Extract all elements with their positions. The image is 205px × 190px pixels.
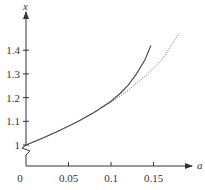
- x-tick-label: 0.1: [104, 172, 118, 184]
- chart-canvas: 11.11.21.31.4 00.050.10.15 x a: [0, 0, 205, 190]
- y-tick-label: 1.3: [6, 68, 20, 80]
- x-tick-label: 0.05: [59, 172, 79, 184]
- y-axis-label: x: [22, 0, 28, 12]
- y-tick-label: 1.2: [6, 92, 20, 104]
- x-axis-label: a: [197, 159, 203, 171]
- x-ticks: 00.050.10.15: [17, 162, 163, 184]
- series-exact: [26, 46, 151, 146]
- x-tick-label: 0.15: [144, 172, 164, 184]
- axis-break-icon: [22, 145, 30, 155]
- y-tick-label: 1.4: [6, 44, 20, 56]
- series-approximation: [26, 34, 179, 145]
- series-lines: [26, 34, 179, 145]
- y-tick-label: 1: [15, 139, 21, 151]
- y-axis: [22, 12, 30, 166]
- x-tick-label: 0: [17, 172, 23, 184]
- y-tick-label: 1.1: [6, 115, 20, 127]
